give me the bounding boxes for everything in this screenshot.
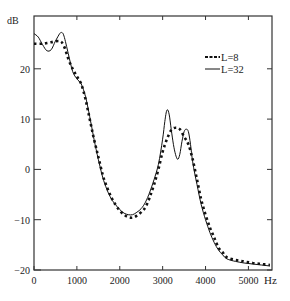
legend: L=8 L=32 (205, 52, 244, 75)
line-chart: 010002000300040005000−20−1001020 dB Hz L… (0, 0, 290, 301)
legend-label-l32: L=32 (221, 64, 244, 75)
y-axis-label: dB (7, 15, 19, 26)
x-tick-label: 2000 (110, 275, 130, 286)
x-tick-label: 0 (32, 275, 37, 286)
x-tick-label: 3000 (153, 275, 173, 286)
y-tick-label: −10 (14, 215, 30, 226)
x-tick-label: 1000 (67, 275, 87, 286)
legend-label-l8: L=8 (221, 52, 239, 63)
y-tick-label: 10 (20, 114, 30, 125)
x-tick-label: 5000 (238, 275, 258, 286)
x-axis-label: Hz (264, 274, 277, 286)
y-tick-label: 20 (20, 64, 30, 75)
y-tick-label: −20 (14, 265, 30, 276)
x-tick-label: 4000 (196, 275, 216, 286)
y-tick-label: 0 (25, 164, 30, 175)
